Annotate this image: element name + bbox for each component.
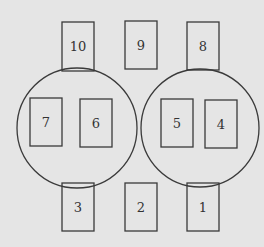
diagram-canvas: 10987654321 bbox=[0, 0, 264, 247]
left-group-circle bbox=[17, 68, 137, 188]
box-label: 5 bbox=[173, 116, 181, 131]
box-5: 5 bbox=[161, 99, 193, 147]
box-label: 9 bbox=[137, 38, 145, 53]
box-1: 1 bbox=[187, 183, 219, 231]
box-2: 2 bbox=[125, 183, 157, 231]
box-label: 2 bbox=[137, 200, 145, 215]
box-4: 4 bbox=[205, 100, 237, 148]
box-label: 10 bbox=[70, 39, 87, 54]
box-3: 3 bbox=[62, 183, 94, 231]
box-label: 4 bbox=[217, 117, 225, 132]
box-10: 10 bbox=[62, 22, 94, 71]
box-label: 8 bbox=[199, 39, 207, 54]
box-label: 3 bbox=[74, 200, 82, 215]
seating-diagram: 10987654321 bbox=[0, 0, 264, 247]
box-7: 7 bbox=[30, 98, 62, 146]
box-6: 6 bbox=[80, 99, 112, 147]
box-label: 1 bbox=[199, 200, 207, 215]
right-group-circle bbox=[141, 69, 259, 187]
box-8: 8 bbox=[187, 22, 219, 70]
box-label: 7 bbox=[42, 115, 50, 130]
box-label: 6 bbox=[92, 116, 100, 131]
box-9: 9 bbox=[125, 21, 157, 69]
